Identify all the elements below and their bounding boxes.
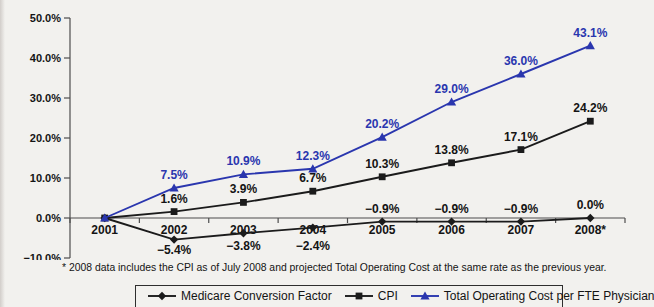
legend-label: Total Operating Cost per FTE Physician: [444, 289, 654, 303]
data-label: 29.0%: [435, 82, 469, 96]
chart-canvas: −10.0%0.0%10.0%20.0%30.0%40.0%50.0%20012…: [0, 0, 654, 260]
data-label: −3.8%: [226, 239, 261, 253]
x-category-label: 2008*: [575, 223, 607, 237]
y-tick-label: 50.0%: [30, 12, 61, 24]
legend-item: CPI: [345, 289, 398, 303]
y-tick-label: 0.0%: [36, 212, 61, 224]
legend-item: Medicare Conversion Factor: [148, 289, 332, 303]
square-marker-icon: [345, 290, 373, 302]
data-label: 10.3%: [365, 157, 399, 171]
data-label: 10.9%: [226, 154, 260, 168]
chart-legend: Medicare Conversion FactorCPITotal Opera…: [135, 285, 563, 307]
data-label: −5.4%: [157, 243, 192, 257]
data-label: 0.0%: [577, 198, 605, 212]
x-category-label: 2001: [91, 223, 118, 237]
data-label: 20.2%: [365, 117, 399, 131]
data-label: −2.4%: [296, 239, 331, 253]
data-label: 7.5%: [160, 168, 188, 182]
chart-footnote: * 2008 data includes the CPI as of July …: [62, 262, 607, 273]
data-label: −0.9%: [504, 202, 539, 216]
data-label: 1.6%: [160, 192, 188, 206]
data-label: −0.9%: [365, 202, 400, 216]
x-category-label: 2002: [161, 223, 188, 237]
legend-label: Medicare Conversion Factor: [181, 289, 332, 303]
data-label: 6.7%: [299, 171, 327, 185]
y-tick-label: 20.0%: [30, 132, 61, 144]
triangle-marker-icon: [411, 290, 439, 302]
y-tick-label: 30.0%: [30, 92, 61, 104]
y-tick-label: −10.0%: [23, 252, 61, 260]
y-axis: −10.0%0.0%10.0%20.0%30.0%40.0%50.0%: [23, 12, 70, 260]
data-label: 43.1%: [573, 26, 607, 40]
y-tick-label: 40.0%: [30, 52, 61, 64]
data-label: 3.9%: [230, 182, 258, 196]
data-label: 24.2%: [573, 101, 607, 115]
data-label: 12.3%: [296, 149, 330, 163]
legend-item: Total Operating Cost per FTE Physician: [411, 289, 654, 303]
chart-page: −10.0%0.0%10.0%20.0%30.0%40.0%50.0%20012…: [0, 0, 654, 307]
data-label: −0.9%: [434, 202, 469, 216]
data-label: 36.0%: [504, 54, 538, 68]
y-tick-label: 10.0%: [30, 172, 61, 184]
data-label: 17.1%: [504, 130, 538, 144]
legend-label: CPI: [378, 289, 398, 303]
data-label: 13.8%: [435, 143, 469, 157]
diamond-marker-icon: [148, 290, 176, 302]
